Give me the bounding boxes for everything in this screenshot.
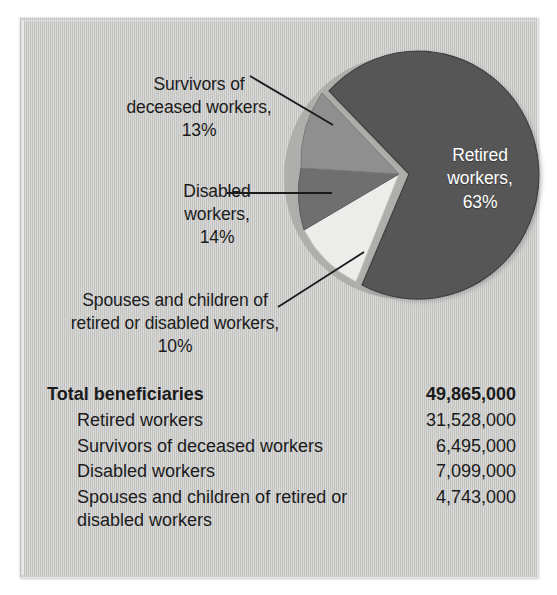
table-row: Disabled workers 7,099,000: [19, 459, 538, 484]
callout-survivors-line1: Survivors of: [105, 73, 293, 96]
callout-disabled-line1: Disabled: [141, 180, 293, 203]
beneficiaries-table: Total beneficiaries 49,865,000 Retired w…: [19, 382, 538, 533]
callout-survivors-line3: 13%: [105, 119, 293, 142]
table-cell-value: 7,099,000: [424, 460, 516, 483]
table-cell-label: Total beneficiaries: [19, 383, 204, 406]
callout-spouses-line1: Spouses and children of: [35, 289, 315, 312]
callout-survivors: Survivors of deceased workers, 13%: [105, 73, 293, 142]
table-row: Retired workers 31,528,000: [19, 408, 538, 433]
slice-label-retired-line1: Retired: [421, 144, 539, 167]
table-cell-value: 31,528,000: [414, 409, 516, 432]
table-cell-value: 6,495,000: [424, 435, 516, 458]
callout-spouses-line2: retired or disabled workers,: [35, 312, 315, 335]
slice-label-retired-line3: 63%: [421, 191, 539, 214]
slice-label-retired-workers: Retired workers, 63%: [421, 144, 539, 214]
table-row: Spouses and children of retired or disab…: [19, 485, 538, 534]
slice-label-retired-line2: workers,: [421, 167, 539, 190]
table-cell-label: Spouses and children of retired or disab…: [19, 486, 407, 533]
figure-root: Survivors of deceased workers, 13% Disab…: [0, 0, 557, 595]
table-row: Survivors of deceased workers 6,495,000: [19, 434, 538, 459]
callout-spouses-line3: 10%: [35, 335, 315, 358]
pie-chart-area: Survivors of deceased workers, 13% Disab…: [19, 17, 538, 357]
callout-disabled-line3: 14%: [141, 226, 293, 249]
table-row: Total beneficiaries 49,865,000: [19, 382, 538, 408]
table-cell-value: 49,865,000: [414, 383, 516, 406]
table-cell-label: Survivors of deceased workers: [19, 435, 323, 458]
callout-spouses: Spouses and children of retired or disab…: [35, 289, 315, 358]
table-cell-label: Retired workers: [19, 409, 203, 432]
callout-survivors-line2: deceased workers,: [105, 96, 293, 119]
callout-disabled-line2: workers,: [141, 203, 293, 226]
table-cell-label: Disabled workers: [19, 460, 215, 483]
callout-disabled: Disabled workers, 14%: [141, 180, 293, 249]
table-cell-value: 4,743,000: [424, 486, 516, 509]
